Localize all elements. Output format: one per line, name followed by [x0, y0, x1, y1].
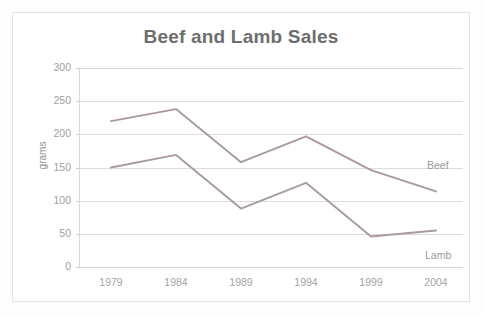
y-axis-title: grams [37, 136, 48, 176]
y-tick-mark [76, 168, 80, 169]
gridline [80, 168, 463, 169]
x-tick-label: 1979 [83, 276, 139, 288]
gridline [80, 68, 463, 69]
x-tick-label: 1994 [278, 276, 334, 288]
gridline [80, 201, 463, 202]
y-tick-mark [76, 68, 80, 69]
y-tick-mark [76, 234, 80, 235]
x-tick-label: 1999 [343, 276, 399, 288]
gridline [80, 234, 463, 235]
gridline [80, 134, 463, 135]
x-tick-label: 1984 [148, 276, 204, 288]
series-label-lamb: Lamb [425, 249, 451, 261]
plot-area [79, 68, 462, 267]
y-tick-mark [76, 101, 80, 102]
x-tick-label: 2004 [408, 276, 464, 288]
series-label-beef: Beef [427, 159, 449, 171]
x-tick-label: 1989 [213, 276, 269, 288]
gridline [80, 267, 463, 268]
page-canvas: Beef and Lamb Sales 050100150200250300 g… [0, 0, 485, 316]
y-tick-mark [76, 267, 80, 268]
page-title: Beef and Lamb Sales [12, 26, 470, 48]
y-tick-mark [76, 201, 80, 202]
y-tick-mark [76, 134, 80, 135]
gridline [80, 101, 463, 102]
